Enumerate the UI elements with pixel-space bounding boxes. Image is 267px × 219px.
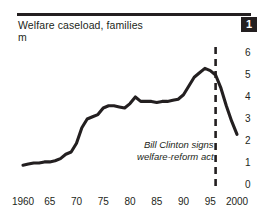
x-tick-label-1960: 1960 xyxy=(12,196,34,207)
event-annotation: Bill Clinton signs welfare-reform act xyxy=(110,139,214,162)
x-tick-label-2000: 2000 xyxy=(226,196,248,207)
chart-canvas xyxy=(0,0,267,219)
y-tick-label-2: 2 xyxy=(245,135,263,146)
y-tick-label-3: 3 xyxy=(245,113,263,124)
plot-area: 6543210 1960657075808590952000 Bill Clin… xyxy=(0,0,267,219)
x-tick-label-70: 70 xyxy=(71,196,82,207)
x-tick-label-85: 85 xyxy=(151,196,162,207)
x-tick-label-80: 80 xyxy=(124,196,135,207)
x-tick-label-90: 90 xyxy=(178,196,189,207)
x-tick-label-95: 95 xyxy=(205,196,216,207)
y-tick-label-1: 1 xyxy=(245,157,263,168)
x-tick-label-65: 65 xyxy=(44,196,55,207)
y-tick-label-5: 5 xyxy=(245,69,263,80)
y-tick-label-0: 0 xyxy=(245,179,263,190)
chart-card: Welfare caseload, families m 1 6543210 1… xyxy=(0,0,267,219)
event-annotation-line2: welfare-reform act xyxy=(110,151,214,163)
y-tick-label-6: 6 xyxy=(245,47,263,58)
event-annotation-line1: Bill Clinton signs xyxy=(110,139,214,151)
y-tick-label-4: 4 xyxy=(245,91,263,102)
x-tick-label-75: 75 xyxy=(98,196,109,207)
